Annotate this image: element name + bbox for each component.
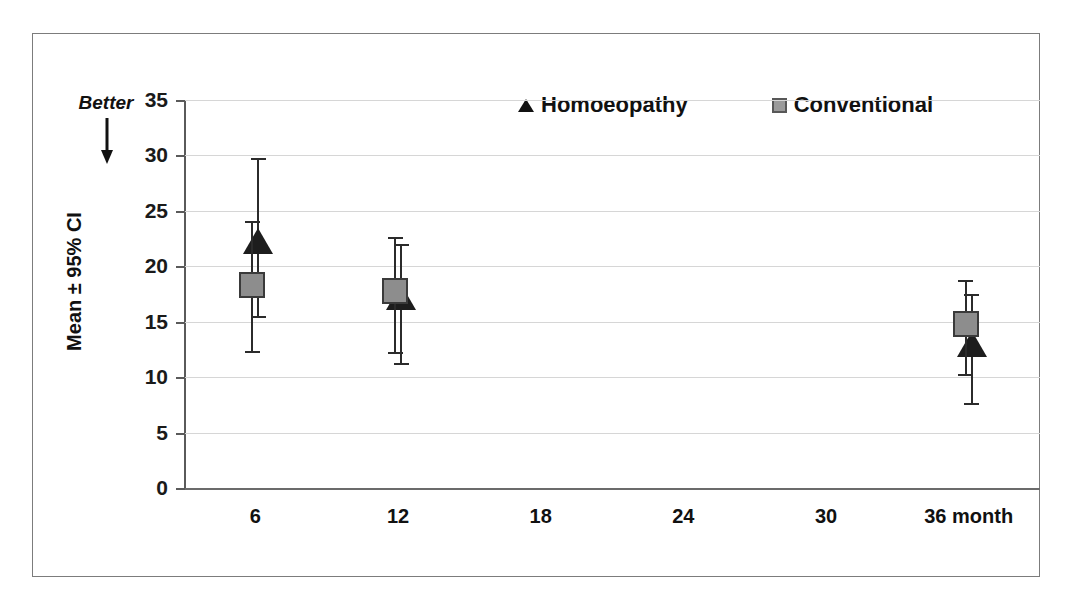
x-axis-tick-label: 6 [175, 505, 335, 528]
down-arrow-icon [100, 118, 114, 164]
y-axis-tick [176, 100, 185, 102]
gridline [184, 322, 1040, 323]
y-axis-tick [176, 322, 185, 324]
y-axis-tick [176, 211, 185, 213]
x-axis-tick-label: 18 [461, 505, 621, 528]
error-bar-cap [958, 374, 973, 376]
data-point-conventional[interactable] [382, 278, 408, 304]
x-axis-tick-label: 36 month [889, 505, 1049, 528]
y-axis-tick-label: 20 [122, 255, 168, 276]
y-axis-tick-label: 30 [122, 144, 168, 165]
y-axis-tick [176, 377, 185, 379]
error-bar-cap [388, 237, 403, 239]
legend-item-homoeopathy[interactable]: Homoeopathy [518, 92, 688, 118]
y-axis-tick [176, 433, 185, 435]
plot-area: Better Mean ± 95% CI Homoeopathy Convent… [0, 0, 1076, 612]
gridline [184, 266, 1040, 267]
y-axis-tick [176, 155, 185, 157]
data-point-conventional[interactable] [239, 272, 265, 298]
error-bar-cap [964, 403, 979, 405]
legend: Homoeopathy Conventional [518, 92, 933, 118]
legend-item-conventional[interactable]: Conventional [772, 92, 933, 118]
error-bar-cap [251, 158, 266, 160]
error-bar-cap [245, 351, 260, 353]
data-point-conventional[interactable] [953, 311, 979, 337]
x-axis-tick-label: 24 [603, 505, 763, 528]
gridline [184, 155, 1040, 156]
y-axis-tick-label: 25 [122, 200, 168, 221]
x-axis-tick-label: 30 [746, 505, 906, 528]
y-axis-tick-label: 35 [122, 89, 168, 110]
y-axis-tick-label: 10 [122, 366, 168, 387]
y-axis-tick [176, 488, 185, 490]
data-point-homoeopathy[interactable] [243, 228, 273, 254]
legend-label-homoeopathy: Homoeopathy [541, 92, 688, 118]
figure-canvas: Better Mean ± 95% CI Homoeopathy Convent… [0, 0, 1076, 612]
error-bar-cap [388, 352, 403, 354]
error-bar-cap [958, 280, 973, 282]
x-axis-line [184, 488, 1040, 490]
gridline [184, 377, 1040, 378]
gridline [184, 433, 1040, 434]
legend-label-conventional: Conventional [794, 92, 933, 118]
error-bar-cap [245, 221, 260, 223]
gridline [184, 211, 1040, 212]
y-axis-tick-label: 5 [122, 422, 168, 443]
y-axis-line [184, 100, 186, 489]
gridline [184, 100, 1040, 101]
y-axis-title: Mean ± 95% CI [63, 192, 86, 372]
y-axis-tick-label: 15 [122, 311, 168, 332]
y-axis-tick [176, 266, 185, 268]
x-axis-tick-label: 12 [318, 505, 478, 528]
error-bar-cap [394, 363, 409, 365]
y-axis-tick-label: 0 [122, 477, 168, 498]
